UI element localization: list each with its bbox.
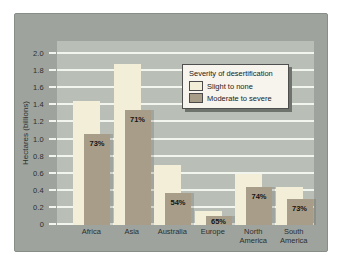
y-tick-label: 2.0 [33, 49, 44, 58]
y-tick-label: 0.8 [33, 151, 44, 160]
y-tick-label: 0.6 [33, 168, 44, 177]
x-category-label: Europe [193, 228, 234, 237]
bar-moderate-australia: 54% [165, 193, 191, 225]
bar-percent-label: 74% [246, 192, 272, 201]
bar-percent-label: 71% [125, 115, 151, 124]
bar-percent-label: 65% [206, 216, 232, 225]
y-tick-label: 1.2 [33, 117, 44, 126]
y-tick-label: 0 [40, 220, 44, 229]
bar-moderate-asia: 71% [125, 110, 151, 225]
desertification-bar-chart: Hectares (billions) 2.01.81.61.41.21.00.… [14, 13, 328, 252]
y-tick-mark [49, 138, 56, 140]
bar-percent-label: 54% [165, 198, 191, 207]
bar-moderate-europe: 65% [206, 216, 232, 225]
y-tick-mark [49, 69, 56, 71]
legend: Severity of desertification Slight to no… [182, 64, 289, 109]
y-tick-label: 1.0 [33, 134, 44, 143]
y-tick-mark [49, 103, 56, 105]
bar-percent-label: 73% [287, 204, 313, 213]
legend-swatch-slight-icon [189, 81, 203, 91]
y-tick-label: 0.2 [33, 202, 44, 211]
bar-moderate-south-america: 73% [287, 199, 313, 226]
y-tick-label: 1.4 [33, 100, 44, 109]
bar-moderate-africa: 73% [84, 134, 110, 225]
x-axis: AfricaAsiaAustraliaEuropeNorth AmericaSo… [71, 228, 314, 250]
x-category-label: South America [274, 228, 315, 245]
y-tick-mark [49, 223, 56, 225]
legend-item-slight: Slight to none [189, 81, 283, 91]
y-tick-label: 0.4 [33, 185, 44, 194]
y-tick-label: 1.8 [33, 66, 44, 75]
x-category-label: North America [233, 228, 274, 245]
y-tick-mark [49, 86, 56, 88]
bar-percent-label: 73% [84, 139, 110, 148]
legend-label-slight: Slight to none [207, 82, 253, 91]
legend-item-moderate: Moderate to severe [189, 93, 283, 103]
y-tick-mark [49, 52, 56, 54]
bar-group-asia: 71% [112, 41, 153, 225]
x-category-label: Asia [112, 228, 153, 237]
y-tick-mark [49, 206, 56, 208]
y-tick-mark [49, 120, 56, 122]
legend-title: Severity of desertification [189, 69, 283, 78]
bar-moderate-north-america: 74% [246, 187, 272, 225]
x-category-label: Australia [152, 228, 193, 237]
y-tick-mark [49, 155, 56, 157]
x-category-label: Africa [71, 228, 112, 237]
bar-group-africa: 73% [71, 41, 112, 225]
y-tick-mark [49, 189, 56, 191]
y-tick-label: 1.6 [33, 83, 44, 92]
legend-label-moderate: Moderate to severe [207, 94, 272, 103]
y-tick-mark [49, 172, 56, 174]
legend-swatch-moderate-icon [189, 93, 203, 103]
